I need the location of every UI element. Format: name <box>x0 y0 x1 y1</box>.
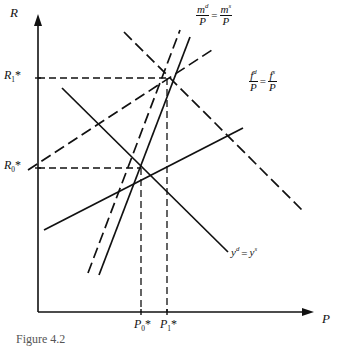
y-tick-R0-star: * <box>15 158 21 172</box>
money-demand-numerator: md <box>196 3 209 15</box>
x-tick-label-P1: P1* <box>160 318 177 333</box>
money-demand-num-sup: d <box>205 2 208 9</box>
x-tick-label-P0: P0* <box>134 318 151 333</box>
x-axis-label: P <box>322 312 330 325</box>
y-tick-R1-star: * <box>15 68 21 82</box>
goods-supply-sup: s <box>254 245 257 252</box>
bond-demand-denominator: P <box>249 81 258 93</box>
money-supply-num-sup: s <box>229 2 232 9</box>
tick-marks <box>35 78 167 315</box>
figure-caption: Figure 4.2 <box>16 333 65 345</box>
y-axis-label: R <box>10 6 18 19</box>
axes <box>34 14 314 316</box>
x-tick-P0-star: * <box>145 317 151 331</box>
bond-market-equals: = <box>258 76 268 87</box>
y-tick-label-R1: R1* <box>4 69 21 84</box>
curve-goods-market-shifted <box>124 32 305 213</box>
curve-money-market-shifted <box>88 30 180 273</box>
y-axis-arrowhead <box>34 14 42 26</box>
bond-market-label: fd P = fs P <box>249 69 277 93</box>
bond-demand-numerator: fd <box>249 69 258 81</box>
curve-money-market-initial <box>99 37 190 275</box>
money-supply-fraction: ms P <box>220 3 233 27</box>
money-demand-fraction: md P <box>196 3 209 27</box>
money-demand-denominator: P <box>196 15 209 27</box>
money-demand-num-base: m <box>197 3 205 15</box>
bond-demand-num-sup: d <box>253 68 256 75</box>
curve-goods-market-initial <box>62 88 228 252</box>
bond-supply-fraction: fs P <box>268 69 277 93</box>
bond-demand-fraction: fd P <box>249 69 258 93</box>
goods-market-equals: = <box>239 248 249 259</box>
money-market-label: md P = ms P <box>196 3 232 27</box>
curve-bond-market-initial <box>44 128 243 230</box>
curve-bond-market-shifted <box>28 50 212 170</box>
x-axis-arrowhead <box>302 308 314 316</box>
money-supply-num-base: m <box>221 3 229 15</box>
y-tick-label-R0: R0* <box>4 159 21 174</box>
goods-market-label: yd=ys <box>231 246 257 259</box>
money-supply-numerator: ms <box>220 3 233 15</box>
x-tick-P1-star: * <box>171 317 177 331</box>
money-market-equals: = <box>209 10 219 21</box>
bond-supply-num-sup: s <box>273 68 276 75</box>
money-supply-denominator: P <box>220 15 233 27</box>
bond-supply-denominator: P <box>268 81 277 93</box>
bond-supply-numerator: fs <box>268 69 277 81</box>
